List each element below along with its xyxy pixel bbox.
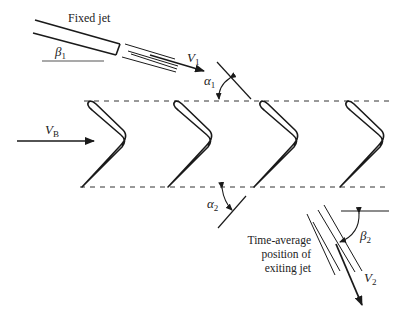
- exit-jet-streamlines: [307, 205, 362, 275]
- alpha1-label: α1: [204, 73, 215, 90]
- diagram-canvas: Fixed jet β1 V1 α1 VB α2 V2 β2 Time-aver…: [0, 0, 406, 326]
- blade-1: [82, 101, 126, 187]
- fixed-jet-label: Fixed jet: [68, 11, 111, 25]
- fixed-jet-nozzle: [33, 20, 120, 55]
- v2-arrow: [336, 244, 362, 305]
- alpha2-label: α2: [207, 196, 218, 213]
- blade-4: [340, 101, 384, 187]
- alpha2-arc: [222, 188, 232, 210]
- alpha2-blade-angle-line: [218, 196, 246, 228]
- exit-jet-caption-line2: position of: [261, 248, 311, 261]
- v2-label: V2: [364, 270, 376, 287]
- blade-3: [254, 101, 298, 187]
- v1-label: V1: [187, 50, 199, 67]
- exit-jet-caption-line1: Time-average: [248, 234, 311, 247]
- blade-2: [168, 101, 212, 187]
- alpha1-blade-angle-line: [217, 62, 251, 99]
- exit-jet-caption-line3: exiting jet: [265, 262, 312, 275]
- beta2-label: β2: [359, 228, 371, 245]
- jet-streamlines: [122, 44, 178, 72]
- beta1-label: β1: [54, 44, 66, 61]
- alpha1-arc: [219, 78, 230, 99]
- vb-label: VB: [45, 122, 59, 139]
